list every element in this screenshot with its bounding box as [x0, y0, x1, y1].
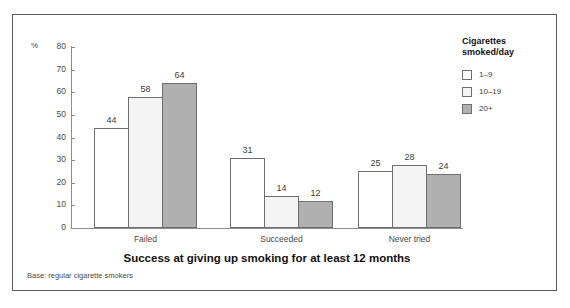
- bar: 24: [426, 174, 461, 228]
- bar-value-label: 44: [95, 115, 128, 125]
- legend-title: Cigarettes smoked/day: [462, 36, 552, 58]
- y-axis-tick: 60: [71, 92, 75, 93]
- y-axis-tick: 30: [71, 160, 75, 161]
- legend-item: 1–9: [462, 66, 552, 83]
- bar-value-label: 64: [163, 70, 196, 80]
- y-axis-tick-mark: [71, 92, 75, 93]
- y-axis-tick-label: 60: [57, 86, 66, 96]
- y-axis-tick-label: 30: [57, 154, 66, 164]
- bar-value-label: 25: [359, 158, 392, 168]
- y-axis-tick: 10: [71, 205, 75, 206]
- y-axis-tick: 80: [71, 47, 75, 48]
- bar: 25: [358, 171, 393, 228]
- legend-item-label: 20+: [479, 104, 493, 113]
- y-axis-tick-label: 0: [61, 222, 66, 232]
- y-axis-tick: 0: [71, 228, 75, 229]
- legend-item: 10–19: [462, 83, 552, 100]
- y-axis-unit-label: %: [31, 41, 38, 50]
- y-axis-tick-mark: [71, 70, 75, 71]
- legend: Cigarettes smoked/day 1–910–1920+: [462, 36, 552, 117]
- legend-swatch: [462, 70, 472, 80]
- y-axis-tick-mark: [71, 160, 75, 161]
- y-axis-tick-label: 10: [57, 199, 66, 209]
- y-axis-tick: 40: [71, 138, 75, 139]
- base-note: Base: regular cigarette smokers: [27, 271, 133, 280]
- y-axis-tick: 70: [71, 70, 75, 71]
- bar: 12: [298, 201, 333, 228]
- bar: 28: [392, 165, 427, 228]
- y-axis-tick-mark: [71, 183, 75, 184]
- legend-item-label: 1–9: [479, 70, 492, 79]
- bar-value-label: 12: [299, 188, 332, 198]
- y-axis-tick-mark: [71, 138, 75, 139]
- legend-swatch: [462, 104, 472, 114]
- y-axis-tick-mark: [71, 115, 75, 116]
- category-label: Succeeded: [230, 234, 333, 244]
- category-label: Failed: [94, 234, 197, 244]
- legend-items: 1–910–1920+: [462, 66, 552, 117]
- bar: 31: [230, 158, 265, 228]
- chart-frame: % 01020304050607080 445864311412252824 F…: [12, 14, 557, 291]
- bar: 44: [94, 128, 129, 228]
- y-axis-tick: 50: [71, 115, 75, 116]
- x-axis-line: [71, 228, 463, 229]
- y-axis-tick-label: 70: [57, 64, 66, 74]
- bar-value-label: 28: [393, 152, 426, 162]
- legend-item: 20+: [462, 100, 552, 117]
- y-axis-tick-label: 40: [57, 132, 66, 142]
- category-label: Never tried: [358, 234, 461, 244]
- y-axis-tick-mark: [71, 205, 75, 206]
- y-axis-tick: 20: [71, 183, 75, 184]
- bar-value-label: 24: [427, 161, 460, 171]
- legend-item-label: 10–19: [479, 87, 501, 96]
- y-axis-tick-mark: [71, 47, 75, 48]
- bar-value-label: 31: [231, 145, 264, 155]
- bar: 14: [264, 196, 299, 228]
- chart-title: Success at giving up smoking for at leas…: [71, 252, 463, 264]
- y-axis-tick-label: 20: [57, 177, 66, 187]
- bar-value-label: 14: [265, 183, 298, 193]
- bar: 64: [162, 83, 197, 228]
- y-axis-tick-mark: [71, 228, 75, 229]
- y-axis-tick-label: 50: [57, 109, 66, 119]
- bar: 58: [128, 97, 163, 228]
- legend-swatch: [462, 87, 472, 97]
- bar-value-label: 58: [129, 84, 162, 94]
- y-axis-tick-label: 80: [57, 41, 66, 51]
